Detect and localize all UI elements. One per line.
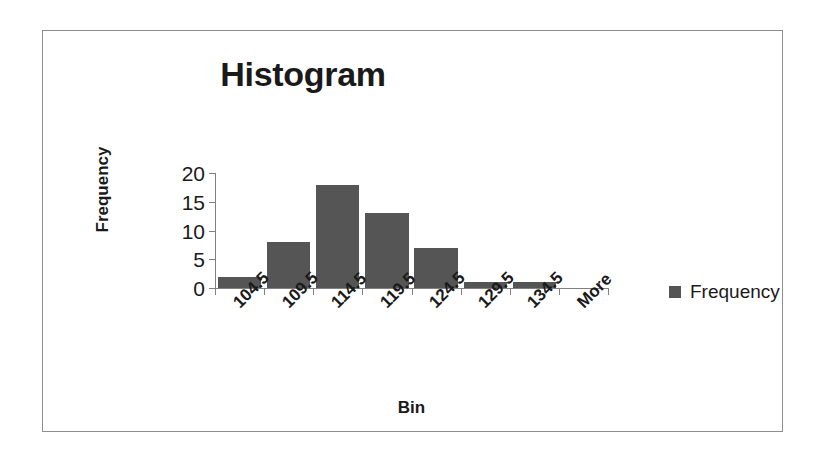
legend-label-frequency: Frequency [690, 282, 780, 301]
y-axis-tick-label: 15 [159, 192, 205, 213]
y-axis-tick-label: 20 [159, 163, 205, 184]
y-axis-tick-label: 5 [159, 249, 205, 270]
y-axis-tick-label: 0 [159, 278, 205, 299]
legend-swatch-frequency [669, 286, 681, 298]
chart-title: Histogram [43, 57, 563, 91]
x-axis-tick [215, 288, 216, 295]
y-axis-title: Frequency [94, 125, 111, 255]
y-axis-tick-label: 10 [159, 221, 205, 242]
x-axis-title: Bin [215, 399, 608, 416]
chart-frame: Histogram Frequency 20151050 104.5109.51… [42, 30, 783, 432]
chart-legend: Frequency [669, 282, 780, 301]
